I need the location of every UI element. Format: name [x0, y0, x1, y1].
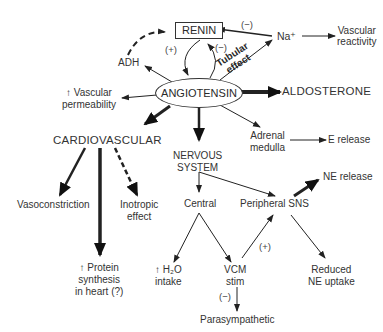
protein-synthesis-node: ↑ Protein synthesis in heart (?) — [75, 262, 123, 298]
angiotensin-node: ANGIOTENSIN — [155, 78, 243, 108]
vasoconstriction-node: Vasoconstriction — [17, 199, 90, 211]
peripheral-sns-node: Peripheral SNS — [240, 198, 309, 210]
vcm-to-parasym-minus-label: (−) — [219, 291, 231, 302]
vascular-permeability-line1: ↑ Vascular — [62, 87, 116, 99]
cardiovascular-node: CARDIOVASCULAR — [53, 134, 162, 146]
vcm-stim-line2: stim — [224, 276, 246, 288]
adrenal-medulla-line2: medulla — [250, 142, 285, 154]
h2o-intake-line1: ↑ H₂O — [155, 264, 182, 276]
protein-synthesis-line3: in heart (?) — [75, 286, 123, 298]
inotropic-effect-line2: effect — [120, 211, 158, 223]
parasympathetic-node: Parasympathetic — [200, 314, 274, 326]
vcm-stim-node: VCM stim — [224, 264, 246, 288]
e-release-node: E release — [328, 134, 370, 146]
adrenal-medulla-node: Adrenal medulla — [250, 130, 285, 154]
na-to-renin-minus-label: (−) — [241, 19, 253, 30]
inotropic-effect-node: Inotropic effect — [120, 199, 158, 223]
inotropic-effect-line1: Inotropic — [120, 199, 158, 211]
reduced-ne-uptake-line1: Reduced — [308, 264, 355, 276]
renin-angiotensin-diagram: RENIN ANGIOTENSIN ADH Na⁺ Vascular react… — [0, 0, 383, 332]
vascular-reactivity-line1: Vascular — [337, 25, 376, 36]
vcm-stim-line1: VCM — [224, 264, 246, 276]
na-node: Na⁺ — [277, 30, 296, 42]
vascular-permeability-node: ↑ Vascular permeability — [62, 87, 116, 111]
vascular-permeability-line2: permeability — [62, 99, 116, 111]
renin-to-angio-plus-label: (+) — [165, 44, 177, 55]
adh-node: ADH — [118, 57, 139, 69]
nervous-system-line1: NERVOUS — [173, 150, 222, 162]
ne-release-node: NE release — [323, 171, 372, 183]
h2o-intake-line2: intake — [155, 276, 182, 288]
reduced-ne-uptake-line2: NE uptake — [308, 276, 355, 288]
protein-synthesis-line1: ↑ Protein — [75, 262, 123, 274]
nervous-system-node: NERVOUS SYSTEM — [173, 150, 222, 174]
vascular-reactivity-node: Vascular reactivity — [337, 25, 376, 47]
aldosterone-node: ALDOSTERONE — [282, 85, 371, 97]
reduced-ne-uptake-node: Reduced NE uptake — [308, 264, 355, 288]
vascular-reactivity-line2: reactivity — [337, 36, 376, 47]
renin-node: RENIN — [175, 22, 223, 39]
central-node: Central — [184, 198, 216, 210]
h2o-intake-node: ↑ H₂O intake — [155, 264, 182, 288]
nervous-system-line2: SYSTEM — [173, 162, 222, 174]
vcm-to-peripheral-plus-label: (+) — [259, 241, 271, 252]
adrenal-medulla-line1: Adrenal — [250, 130, 285, 142]
protein-synthesis-line2: synthesis — [75, 274, 123, 286]
